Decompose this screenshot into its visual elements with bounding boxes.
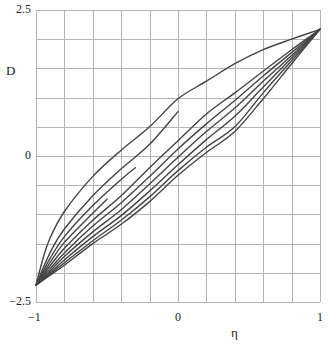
chart-plot	[0, 0, 329, 345]
y-axis-label: D	[6, 64, 15, 77]
y-tick-label: −2.5	[9, 295, 31, 307]
series-curve-2	[36, 112, 178, 286]
x-tick-label: −1	[28, 311, 41, 323]
y-tick-label: 0	[25, 149, 31, 161]
x-tick-label: 1	[317, 311, 323, 323]
x-tick-label: 0	[175, 311, 181, 323]
y-tick-label: 2.5	[16, 3, 31, 15]
x-axis-label: η	[231, 326, 238, 339]
